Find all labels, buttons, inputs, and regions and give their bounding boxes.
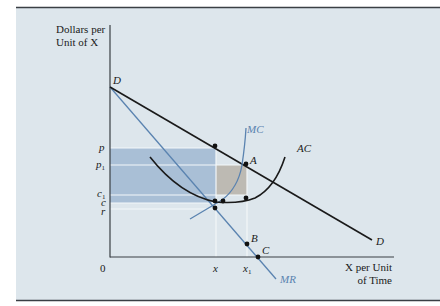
- y-axis-label-line1: Dollars per: [56, 23, 106, 35]
- monopoly-cost-revenue-diagram: Dollars per Unit of X D p p1 c1 c r 0 x …: [0, 0, 440, 306]
- demand-label-end: D: [375, 235, 384, 247]
- y-axis-label-line2: Unit of X: [56, 36, 98, 48]
- origin-label: 0: [100, 262, 106, 274]
- x-axis-label-line2: of Time: [357, 274, 392, 286]
- tick-x: x: [212, 262, 218, 274]
- point-a-label: A: [249, 154, 257, 166]
- tick-r: r: [101, 205, 106, 217]
- point-c-label: C: [262, 244, 270, 256]
- ac-label: AC: [296, 142, 312, 154]
- mr-label: MR: [279, 273, 296, 285]
- point-b-label: B: [251, 232, 258, 244]
- demand-label-top: D: [112, 74, 121, 86]
- x-axis-label-line1: X per Unit: [345, 261, 392, 273]
- tick-p: p: [98, 141, 105, 153]
- mc-label: MC: [246, 123, 264, 135]
